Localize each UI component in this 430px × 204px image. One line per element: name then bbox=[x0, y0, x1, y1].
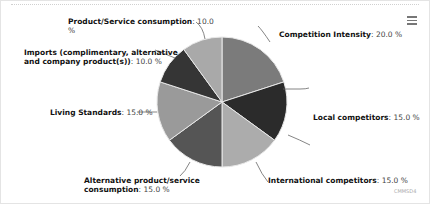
label-living-standards: Living Standards: 15.0 % bbox=[50, 108, 153, 117]
label-value: : 15.0 % bbox=[139, 185, 170, 194]
label-value: : 15.0 % bbox=[389, 113, 420, 122]
label-product-service: Product/Service consumption: 10.0 % bbox=[68, 17, 214, 35]
label-name-line1: Imports (complimentary, alternative bbox=[24, 48, 178, 57]
menu-bar bbox=[407, 16, 417, 18]
label-name-line2: and company product(s)) bbox=[24, 57, 131, 66]
label-value: : 10.0 % bbox=[131, 57, 162, 66]
hamburger-menu-icon[interactable] bbox=[407, 16, 417, 25]
label-competition-intensity: Competition Intensity: 20.0 % bbox=[279, 30, 402, 39]
label-name-line2: consumption bbox=[84, 185, 139, 194]
label-name: Competition Intensity bbox=[279, 30, 371, 39]
chart-credit: CMMSD4 bbox=[394, 188, 416, 194]
label-name: International competitors bbox=[268, 176, 377, 185]
label-local-competitors: Local competitors: 15.0 % bbox=[313, 113, 420, 122]
label-alternative: Alternative product/service consumption:… bbox=[84, 176, 200, 194]
label-international-competitors: International competitors: 15.0 % bbox=[268, 176, 408, 185]
label-value: : 10.0 bbox=[192, 17, 214, 26]
label-value: : 15.0 % bbox=[121, 108, 152, 117]
label-name: Local competitors bbox=[313, 113, 389, 122]
label-imports: Imports (complimentary, alternative and … bbox=[24, 48, 178, 66]
label-name: Product/Service consumption bbox=[68, 17, 192, 26]
label-name-line1: Alternative product/service bbox=[84, 176, 200, 185]
label-value: : 15.0 % bbox=[377, 176, 408, 185]
label-value-wrap: % bbox=[68, 26, 75, 35]
menu-bar bbox=[407, 20, 417, 22]
menu-bar bbox=[407, 23, 417, 25]
label-value: : 20.0 % bbox=[371, 30, 402, 39]
label-name: Living Standards bbox=[50, 108, 121, 117]
